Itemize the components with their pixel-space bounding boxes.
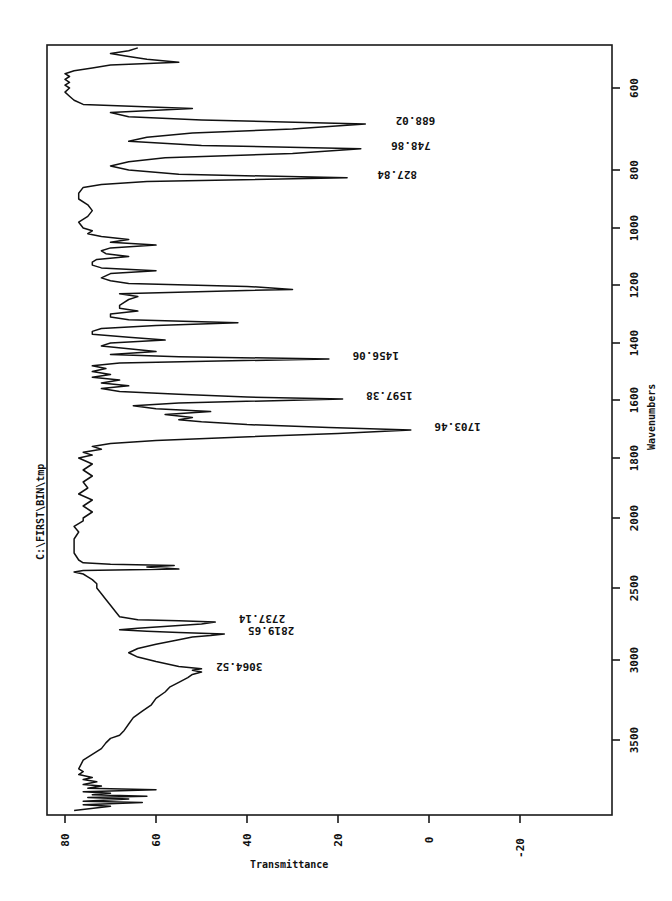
transmittance-axis: 806040200-20 (59, 815, 527, 858)
y-tick-label: 40 (241, 833, 254, 846)
peak-labels: 688.02748.86827.841456.061597.381703.462… (216, 114, 481, 673)
peak-label: 1703.46 (434, 420, 481, 433)
peak-label: 3064.52 (216, 660, 262, 673)
peak-label: 748.86 (391, 139, 431, 152)
x-tick-label: 3500 (628, 727, 641, 754)
x-tick-label: 1200 (628, 272, 641, 299)
y-tick-label: 20 (332, 833, 345, 846)
wavenumber-axis: 6008001000120014001600180020002500300035… (612, 78, 641, 753)
x-tick-label: 1400 (628, 330, 641, 357)
ir-spectrum-chart: 806040200-20 600800100012001400160018002… (0, 0, 672, 901)
peak-label: 1597.38 (366, 389, 412, 402)
x-tick-label: 2500 (628, 575, 641, 602)
x-tick-label: 1800 (628, 445, 641, 472)
x-tick-label: 800 (628, 160, 641, 180)
y-tick-label: 0 (423, 837, 436, 844)
peak-label: 2819.65 (248, 624, 294, 637)
peak-label: 2737.14 (238, 612, 285, 625)
y-tick-label: 80 (59, 833, 72, 846)
y-tick-label: 60 (150, 833, 163, 846)
x-tick-label: 600 (628, 78, 641, 98)
spectrum-trace (65, 48, 411, 811)
x-tick-label: 2000 (628, 505, 641, 532)
peak-label: 1456.06 (352, 349, 399, 362)
peak-label: 827.84 (377, 168, 417, 181)
plot-frame (47, 45, 612, 815)
peak-label: 688.02 (396, 114, 436, 127)
y-axis-label: Transmittance (250, 859, 328, 870)
chart-title: C:\FIRST\BIN\tmp (35, 464, 46, 560)
x-tick-label: 1000 (628, 215, 641, 242)
x-tick-label: 1600 (628, 387, 641, 414)
x-tick-label: 3000 (628, 647, 641, 674)
y-tick-label: -20 (514, 838, 527, 858)
x-axis-label: Wavenumbers (646, 384, 657, 450)
